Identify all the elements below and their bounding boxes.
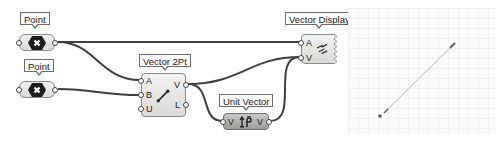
point-1-label: Point — [20, 12, 50, 25]
wire-unit-v-to-display-v — [270, 57, 300, 121]
wire-point2-to-v2pt-b — [58, 89, 140, 95]
vector-2pt-input-a-grip[interactable] — [138, 78, 144, 84]
vector-2pt-input-b-grip[interactable] — [138, 92, 144, 98]
vector-2pt-icon — [156, 89, 170, 103]
unit-vector-input-v: V — [228, 118, 234, 127]
wire-v2pt-v-to-display-v — [188, 57, 300, 84]
vector-2pt-input-u: U — [146, 105, 153, 114]
vector-arrow-tail — [384, 109, 388, 113]
rhino-viewport[interactable] — [348, 8, 496, 134]
vector-display-input-a: A — [306, 39, 312, 48]
vector-2pt-output-v-grip[interactable] — [183, 82, 189, 88]
point-2-input-grip[interactable] — [16, 87, 22, 93]
point-2-output-grip[interactable] — [52, 87, 58, 93]
point-2-param[interactable] — [19, 81, 55, 98]
unit-vector-label: Unit Vector — [219, 94, 273, 107]
grasshopper-canvas[interactable]: Point Point Vector 2Pt A B U — [0, 0, 345, 144]
point-param-icon — [28, 35, 46, 51]
vector-display-label: Vector Display — [285, 12, 354, 25]
vector-display-input-v-grip[interactable] — [298, 55, 304, 61]
point-1-input-grip[interactable] — [16, 40, 22, 46]
point-1-output-grip[interactable] — [52, 40, 58, 46]
vector-2pt-input-a: A — [146, 77, 152, 86]
vector-2pt-label: Vector 2Pt — [139, 54, 191, 67]
viewport-point-start — [379, 115, 382, 118]
vector-preview-line — [386, 44, 454, 111]
point-1-param[interactable] — [19, 34, 55, 51]
unit-vector-input-grip[interactable] — [220, 119, 226, 125]
zigzag-edge — [334, 34, 338, 64]
unit-vector-component[interactable]: V V — [223, 113, 269, 130]
point-param-icon — [28, 82, 46, 98]
vector-arrowhead — [450, 43, 455, 48]
vector-2pt-input-u-grip[interactable] — [138, 106, 144, 112]
point-2-label: Point — [24, 59, 54, 72]
vector-2pt-output-l: L — [175, 101, 180, 110]
vector-display-component[interactable]: A V — [301, 34, 335, 64]
unit-vector-icon — [239, 116, 253, 128]
vector-2pt-output-l-grip[interactable] — [183, 102, 189, 108]
vector-2pt-component[interactable]: A B U V L — [141, 73, 186, 117]
viewport-geometry — [348, 8, 496, 134]
vector-display-icon — [316, 43, 329, 55]
unit-vector-output-grip[interactable] — [266, 119, 272, 125]
vector-display-input-a-grip[interactable] — [298, 40, 304, 46]
vector-2pt-output-v: V — [174, 81, 180, 90]
wire-v2pt-v-to-unit-v — [188, 84, 222, 121]
wire-point1-to-v2pt-a — [58, 42, 140, 80]
vector-2pt-input-b: B — [146, 91, 152, 100]
vector-display-input-v: V — [306, 54, 312, 63]
unit-vector-output-v: V — [257, 118, 263, 127]
